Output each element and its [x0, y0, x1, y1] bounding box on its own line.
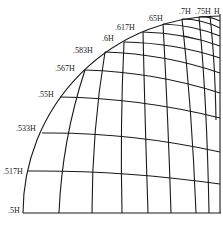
- vertical-curve: [92, 52, 105, 213]
- arc-label: .617H: [115, 24, 135, 32]
- vertical-curve: [163, 24, 171, 213]
- horizontal-curve: [199, 17, 220, 21]
- arc-label: .5H: [8, 207, 20, 215]
- arc-label: .55H: [38, 91, 54, 99]
- vertical-curve: [121, 42, 124, 213]
- arc-label: .583H: [73, 47, 93, 55]
- horizontal-curve: [28, 171, 220, 184]
- horizontal-curve: [85, 70, 220, 93]
- vertical-curve: [59, 70, 85, 213]
- arc-label: H: [214, 8, 220, 16]
- horizontal-curve: [60, 97, 220, 118]
- grid-lines: [23, 14, 221, 213]
- arc-label: .6H: [102, 35, 114, 43]
- arc-label: .75H: [195, 8, 211, 16]
- arc-label: .65H: [147, 15, 163, 23]
- arc-label: .7H: [179, 8, 191, 16]
- vertical-curve: [210, 16, 216, 120]
- arc-label: .533H: [16, 125, 36, 133]
- horizontal-curve: [124, 42, 220, 58]
- arc-label: .567H: [55, 65, 75, 73]
- arc-label: .517H: [3, 168, 23, 176]
- vertical-curve: [143, 32, 148, 213]
